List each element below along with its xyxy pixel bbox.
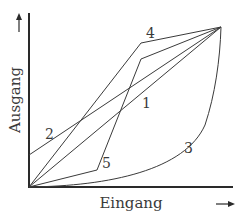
curve-label-3: 3 (184, 140, 193, 156)
curve-label-5: 5 (102, 155, 111, 171)
y-axis-label: Ausgang (6, 67, 24, 134)
curve-label-1: 1 (142, 95, 151, 111)
transfer-curve-diagram: Eingang Ausgang 4 1 2 3 5 (0, 0, 247, 219)
right-arrow-icon (216, 201, 235, 207)
up-arrow-icon (16, 13, 22, 32)
curve-label-2: 2 (45, 126, 54, 142)
curve-1 (29, 27, 221, 187)
x-axis-label: Eingang (99, 194, 163, 212)
curve-label-4: 4 (146, 25, 155, 41)
curve-2 (29, 27, 221, 155)
